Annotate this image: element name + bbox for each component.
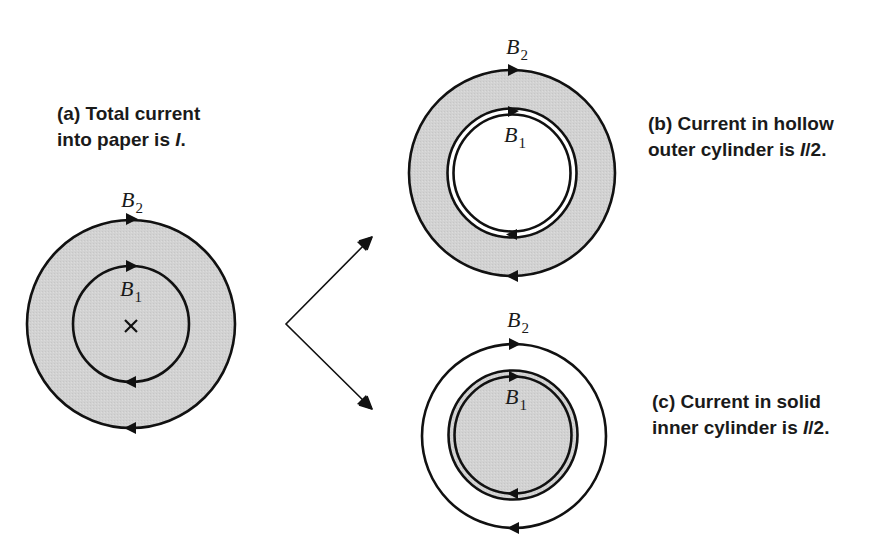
panel-b-diagram: B2 B1 bbox=[409, 34, 615, 282]
caption-b-line1: (b) Current in hollow bbox=[648, 111, 834, 137]
panel-c-diagram: B2 B1 bbox=[422, 307, 606, 534]
caption-a-line1: (a) Total current bbox=[57, 101, 200, 127]
caption-c-line1: (c) Current in solid bbox=[652, 389, 829, 415]
caption-a-line2: into paper is I. bbox=[57, 127, 200, 153]
caption-text: inner cylinder is bbox=[652, 417, 803, 438]
label-b2: B2 bbox=[507, 307, 529, 336]
caption-text: outer cylinder is bbox=[648, 139, 800, 160]
caption-text: into paper is bbox=[57, 129, 175, 150]
caption-b: (b) Current in hollow outer cylinder is … bbox=[648, 111, 834, 163]
label-b2: B2 bbox=[121, 187, 143, 216]
caption-b-line2: outer cylinder is I/2. bbox=[648, 137, 834, 163]
label-b2: B2 bbox=[506, 34, 528, 63]
cylinder-field-diagram: B2 B1 B2 B1 B2 bbox=[0, 0, 886, 559]
caption-a: (a) Total current into paper is I. bbox=[57, 101, 200, 153]
caption-c-line2: inner cylinder is I/2. bbox=[652, 415, 829, 441]
caption-c: (c) Current in solid inner cylinder is I… bbox=[652, 389, 829, 441]
branch-arrows bbox=[286, 237, 372, 409]
caption-text: /2. bbox=[808, 417, 829, 438]
conductor-cross-section bbox=[27, 220, 235, 428]
panel-a-diagram: B2 B1 bbox=[27, 187, 235, 434]
caption-text: /2. bbox=[805, 139, 826, 160]
caption-text: . bbox=[181, 129, 186, 150]
